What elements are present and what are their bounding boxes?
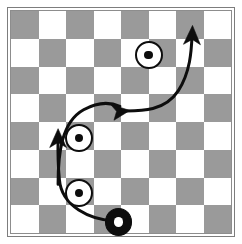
board-square-r5-c3[interactable] bbox=[94, 150, 122, 178]
board-square-r2-c3[interactable] bbox=[94, 67, 122, 95]
board-square-r4-c0[interactable] bbox=[11, 122, 39, 150]
board-square-r7-c0[interactable] bbox=[11, 205, 39, 233]
board-square-r1-c7[interactable] bbox=[204, 39, 232, 67]
white-disc-middle-center-pip bbox=[75, 134, 84, 143]
board-square-r3-c7[interactable] bbox=[204, 94, 232, 122]
board-square-r4-c6[interactable] bbox=[176, 122, 204, 150]
board-square-r0-c7[interactable] bbox=[204, 11, 232, 39]
board-square-r3-c2[interactable] bbox=[66, 94, 94, 122]
board-square-r0-c3[interactable] bbox=[94, 11, 122, 39]
board-square-r2-c4[interactable] bbox=[121, 67, 149, 95]
board-square-r7-c7[interactable] bbox=[204, 205, 232, 233]
white-disc-lower-center-pip bbox=[75, 189, 84, 198]
board-square-r3-c1[interactable] bbox=[39, 94, 67, 122]
board-square-r6-c4[interactable] bbox=[121, 178, 149, 206]
board-square-r5-c5[interactable] bbox=[149, 150, 177, 178]
board-square-r0-c1[interactable] bbox=[39, 11, 67, 39]
board-square-r6-c1[interactable] bbox=[39, 178, 67, 206]
board-square-r3-c0[interactable] bbox=[11, 94, 39, 122]
board-square-r6-c5[interactable] bbox=[149, 178, 177, 206]
board-square-r1-c6[interactable] bbox=[176, 39, 204, 67]
board-square-r3-c5[interactable] bbox=[149, 94, 177, 122]
board-square-r2-c0[interactable] bbox=[11, 67, 39, 95]
board-square-r7-c6[interactable] bbox=[176, 205, 204, 233]
board-square-r4-c1[interactable] bbox=[39, 122, 67, 150]
black-disc-start-center-pip bbox=[114, 217, 124, 227]
checkerboard-inner bbox=[10, 10, 232, 234]
board-square-r3-c6[interactable] bbox=[176, 94, 204, 122]
white-disc-lower[interactable] bbox=[65, 179, 93, 207]
board-square-r5-c2[interactable] bbox=[66, 150, 94, 178]
board-square-r1-c1[interactable] bbox=[39, 39, 67, 67]
board-square-r5-c6[interactable] bbox=[176, 150, 204, 178]
figure-root bbox=[0, 0, 242, 244]
board-square-r5-c7[interactable] bbox=[204, 150, 232, 178]
board-square-r0-c6[interactable] bbox=[176, 11, 204, 39]
white-disc-upper-right[interactable] bbox=[135, 41, 163, 69]
board-square-r0-c5[interactable] bbox=[149, 11, 177, 39]
board-square-r4-c5[interactable] bbox=[149, 122, 177, 150]
board-square-r1-c3[interactable] bbox=[94, 39, 122, 67]
board-square-r2-c6[interactable] bbox=[176, 67, 204, 95]
board-square-r2-c7[interactable] bbox=[204, 67, 232, 95]
board-square-r1-c0[interactable] bbox=[11, 39, 39, 67]
board-square-r7-c2[interactable] bbox=[66, 205, 94, 233]
board-square-r5-c4[interactable] bbox=[121, 150, 149, 178]
board-square-r1-c2[interactable] bbox=[66, 39, 94, 67]
board-square-r3-c3[interactable] bbox=[94, 94, 122, 122]
board-square-r0-c0[interactable] bbox=[11, 11, 39, 39]
board-square-r5-c1[interactable] bbox=[39, 150, 67, 178]
board-square-r6-c3[interactable] bbox=[94, 178, 122, 206]
board-square-r6-c7[interactable] bbox=[204, 178, 232, 206]
board-square-r0-c4[interactable] bbox=[121, 11, 149, 39]
white-disc-upper-right-center-pip bbox=[144, 51, 153, 60]
black-disc-start[interactable] bbox=[105, 208, 132, 236]
board-square-r6-c0[interactable] bbox=[11, 178, 39, 206]
white-disc-middle[interactable] bbox=[65, 124, 93, 152]
board-square-r3-c4[interactable] bbox=[121, 94, 149, 122]
board-square-r7-c5[interactable] bbox=[149, 205, 177, 233]
board-square-r2-c5[interactable] bbox=[149, 67, 177, 95]
board-square-r2-c1[interactable] bbox=[39, 67, 67, 95]
board-square-r5-c0[interactable] bbox=[11, 150, 39, 178]
board-square-r7-c1[interactable] bbox=[39, 205, 67, 233]
board-square-r4-c4[interactable] bbox=[121, 122, 149, 150]
checkerboard-squares bbox=[11, 11, 231, 233]
board-square-r6-c6[interactable] bbox=[176, 178, 204, 206]
board-square-r2-c2[interactable] bbox=[66, 67, 94, 95]
checkerboard-frame bbox=[7, 7, 235, 237]
board-square-r0-c2[interactable] bbox=[66, 11, 94, 39]
board-square-r4-c3[interactable] bbox=[94, 122, 122, 150]
board-square-r4-c7[interactable] bbox=[204, 122, 232, 150]
